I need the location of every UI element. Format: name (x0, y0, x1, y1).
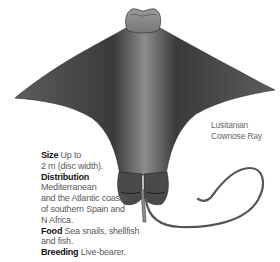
fact-food-text: Sea snails, shellfish (62, 226, 139, 236)
fact-size: Size Up to 2 m (disc width). (41, 150, 151, 172)
species-label: Lusitanian Cownose Ray (211, 120, 262, 141)
fact-breeding-text: Live-bearer. (78, 247, 125, 257)
fact-size-text-2: 2 m (disc width). (41, 161, 103, 171)
fact-size-heading: Size (41, 150, 58, 160)
fact-breeding-heading: Breeding (41, 247, 78, 257)
fact-distribution-heading: Distribution (41, 172, 89, 182)
fact-breeding: Breeding Live-bearer. (41, 247, 151, 258)
page: Lusitanian Cownose Ray Size Up to 2 m (d… (0, 0, 280, 262)
fact-size-text: Up to (58, 150, 81, 160)
fact-food-text-2: and fish. (41, 236, 73, 246)
fact-distribution-line: and the Atlantic coasts (41, 193, 126, 203)
fact-food-heading: Food (41, 226, 62, 236)
fact-food: Food Sea snails, shellfish and fish. (41, 226, 151, 248)
fact-distribution-line: Mediterranean (41, 182, 96, 192)
fact-distribution-line: N Africa. (41, 215, 73, 225)
species-label-line1: Lusitanian (211, 120, 262, 131)
fact-distribution-line: of southern Spain and (41, 204, 125, 214)
species-label-line2: Cownose Ray (211, 131, 262, 142)
ray-head (126, 9, 161, 33)
fact-box: Size Up to 2 m (disc width). Distributio… (41, 150, 151, 258)
fact-distribution: Distribution Mediterranean and the Atlan… (41, 172, 151, 226)
